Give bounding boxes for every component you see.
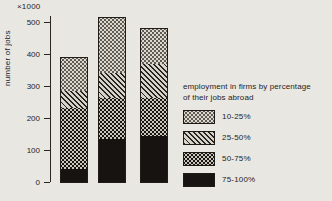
bar-3	[140, 28, 168, 183]
legend-label: 10-25%	[222, 112, 251, 121]
tick-mark-0	[44, 182, 50, 183]
bar-2-segment-10-25%	[99, 18, 125, 73]
tick-label-500: 500	[13, 18, 40, 27]
legend-title-line1: employment in firms by percentage	[183, 82, 329, 93]
legend-item-75-100%: 75-100%	[183, 173, 255, 186]
bar-1-segment-75-100%	[61, 169, 87, 182]
y-axis-unit: ×1000	[17, 2, 40, 11]
bar-3-segment-25-50%	[141, 64, 167, 99]
legend-swatch-dots-dark	[183, 152, 215, 166]
legend-item-25-50%: 25-50%	[183, 131, 251, 144]
tick-label-0: 0	[13, 178, 40, 187]
legend-swatch-dots-light	[183, 110, 215, 124]
bar-3-segment-10-25%	[141, 29, 167, 64]
legend-item-50-75%: 50-75%	[183, 152, 251, 165]
tick-label-200: 200	[13, 114, 40, 123]
bar-1-segment-10-25%	[61, 58, 87, 91]
tick-mark-500	[44, 22, 50, 23]
legend-swatch-diagonal	[183, 131, 215, 145]
legend-swatch-solid-black	[183, 173, 215, 187]
legend-label: 50-75%	[222, 154, 251, 163]
bar-2-segment-25-50%	[99, 73, 125, 98]
tick-label-100: 100	[13, 146, 40, 155]
tick-label-300: 300	[13, 82, 40, 91]
bar-1-segment-50-75%	[61, 108, 87, 169]
legend-label: 25-50%	[222, 133, 251, 142]
legend-label: 75-100%	[222, 175, 255, 184]
legend: employment in firms by percentage of the…	[183, 82, 329, 103]
bar-2	[98, 17, 126, 183]
bar-1	[60, 57, 88, 183]
tick-mark-200	[44, 118, 50, 119]
bar-2-segment-75-100%	[99, 139, 125, 182]
y-axis-line	[50, 16, 51, 182]
tick-mark-100	[44, 150, 50, 151]
bar-1-segment-25-50%	[61, 91, 87, 108]
legend-title-line2: of their jobs abroad	[183, 93, 329, 104]
legend-item-10-25%: 10-25%	[183, 110, 251, 123]
stacked-bar-chart-figure: ×1000 number of jobs 0100200300400500 em…	[0, 0, 332, 201]
bar-3-segment-50-75%	[141, 98, 167, 136]
tick-mark-300	[44, 86, 50, 87]
bar-3-segment-75-100%	[141, 136, 167, 182]
tick-mark-400	[44, 54, 50, 55]
bar-2-segment-50-75%	[99, 98, 125, 139]
tick-label-400: 400	[13, 50, 40, 59]
